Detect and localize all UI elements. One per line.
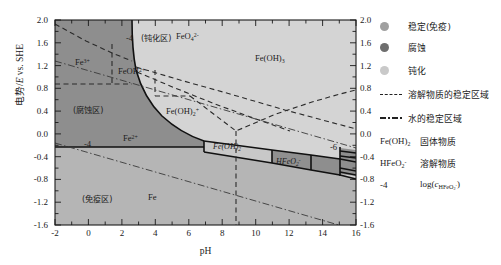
contour-label-minus4-top: -4 xyxy=(126,33,133,43)
legend-label-dissolved-stability: 溶解物质的稳定区域 xyxy=(408,88,489,101)
legend-symbol-solid: Fe(OH)2 xyxy=(380,136,420,147)
species-label-feo4: FeO42- xyxy=(176,31,199,42)
x-tick-6: 10 xyxy=(246,228,266,238)
x-tick-9: 16 xyxy=(346,228,366,238)
species-label-feoh3: Fe(OH)3 xyxy=(255,53,285,64)
legend-label-corrosion: 腐蚀 xyxy=(408,41,426,54)
species-label-feoh2plus-b: Fe(OH)2+ xyxy=(166,106,199,117)
species-label-fe3plus: Fe3+ xyxy=(75,57,90,67)
x-tick-5: 8 xyxy=(212,228,232,238)
y-tick-left-2: 1.2 xyxy=(22,61,48,71)
species-label-fe: Fe xyxy=(148,192,157,202)
x-tick-1: 0 xyxy=(78,228,98,238)
legend-line-dashdot-icon xyxy=(380,117,408,119)
legend-row-solid-species: Fe(OH)2 固体物质 xyxy=(380,130,501,152)
x-tick-7: 12 xyxy=(279,228,299,238)
species-label-fe2plus: Fe2+ xyxy=(123,133,138,143)
legend-label-solid: 固体物质 xyxy=(420,135,456,148)
zone-label-passivation: (钝化区) xyxy=(141,31,171,43)
legend-label-concentration: log(cHFeO2-) xyxy=(420,179,460,191)
y-tick-left-8: -1.2 xyxy=(22,197,48,207)
zone-label-immunity: (免疫区) xyxy=(82,192,112,204)
y-tick-left-3: 0.8 xyxy=(22,83,48,93)
y-tick-left-7: -0.8 xyxy=(22,174,48,184)
legend-symbol-concentration: -4 xyxy=(380,180,420,190)
legend-row-dissolved-species: HFeO2- 溶解物质 xyxy=(380,152,501,174)
contour-label-minus6-right: -6 xyxy=(330,142,337,152)
species-label-feoh2plus: FeOH2+ xyxy=(118,66,145,76)
legend-row-stable: 稳定(免疫) xyxy=(380,16,501,37)
y-tick-left-0: 2.0 xyxy=(22,15,48,25)
y-tick-left-5: 0.0 xyxy=(22,129,48,139)
y-tick-left-1: 1.6 xyxy=(22,38,48,48)
legend-label-water-stability: 水的稳定区域 xyxy=(408,112,462,125)
legend-marker-corrosion xyxy=(380,43,408,52)
species-label-hfeo2: HFeO2- xyxy=(276,157,301,167)
legend-label-stable: 稳定(免疫) xyxy=(408,20,451,33)
legend-row-dissolved-stability: 溶解物质的稳定区域 xyxy=(380,82,501,106)
x-tick-8: 14 xyxy=(313,228,333,238)
x-tick-4: 6 xyxy=(179,228,199,238)
y-tick-left-6: -0.4 xyxy=(22,152,48,162)
x-tick-3: 4 xyxy=(145,228,165,238)
species-label-feoh2-solid: Fe(OH)2 xyxy=(213,142,241,152)
y-tick-left-4: 0.4 xyxy=(22,106,48,116)
y-tick-right-8: -1.2 xyxy=(360,197,386,207)
legend-row-concentration: -4 log(cHFeO2-) xyxy=(380,174,501,196)
legend-symbol-dissolved: HFeO2- xyxy=(380,158,420,169)
legend-marker-passivation xyxy=(380,66,408,75)
legend-row-passivation: 钝化 xyxy=(380,58,501,82)
legend-label-dissolved: 溶解物质 xyxy=(420,157,456,170)
x-axis-label: pH xyxy=(55,246,356,256)
legend: 稳定(免疫) 腐蚀 钝化 溶解物质的稳定区域 水的稳定区域 xyxy=(380,16,501,196)
legend-label-passivation: 钝化 xyxy=(408,64,426,77)
legend-line-dashed-icon xyxy=(380,94,408,95)
legend-marker-stable xyxy=(380,22,408,31)
pourbaix-diagram-figure: 电势/E vs. SHE pH 2.0 1.6 1.2 0.8 0.4 0.0 … xyxy=(0,0,501,265)
contour-label-minus4-left: -4 xyxy=(84,139,91,149)
x-tick-0: -2 xyxy=(45,228,65,238)
legend-row-water-stability: 水的稳定区域 xyxy=(380,106,501,130)
zone-label-corrosion: (腐蚀区) xyxy=(73,103,103,115)
legend-row-corrosion: 腐蚀 xyxy=(380,37,501,58)
x-tick-2: 2 xyxy=(112,228,132,238)
